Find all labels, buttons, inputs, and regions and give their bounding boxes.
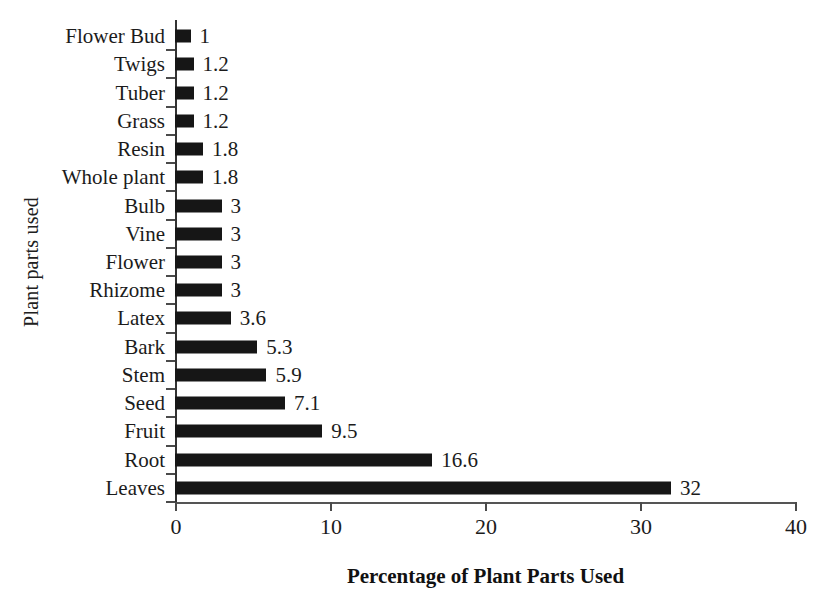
bar-row: Tuber1.2 bbox=[175, 78, 795, 106]
y-axis-tick bbox=[166, 106, 175, 108]
bar-row: Stem5.9 bbox=[175, 361, 795, 389]
x-axis-tick bbox=[640, 502, 642, 511]
plot-area: Flower Bud1Twigs1.2Tuber1.2Grass1.2Resin… bbox=[175, 22, 795, 502]
y-axis-tick bbox=[166, 275, 175, 277]
x-axis-tick bbox=[485, 502, 487, 511]
category-label: Twigs bbox=[114, 54, 165, 75]
category-label: Rhizome bbox=[89, 280, 165, 301]
bar bbox=[175, 368, 266, 381]
y-axis-title: Plant parts used bbox=[14, 22, 48, 502]
bar-value-label: 5.3 bbox=[257, 336, 292, 357]
category-label: Flower bbox=[106, 251, 166, 272]
bar-row: Bulb3 bbox=[175, 191, 795, 219]
bar-value-label: 5.9 bbox=[266, 364, 301, 385]
bar-row: Leaves32 bbox=[175, 474, 795, 502]
bar-value-label: 1.8 bbox=[203, 167, 238, 188]
x-axis-tick bbox=[330, 502, 332, 511]
bar bbox=[175, 312, 231, 325]
bar-value-label: 32 bbox=[671, 477, 701, 498]
x-axis-tick-label: 20 bbox=[475, 516, 497, 538]
x-axis-title: Percentage of Plant Parts Used bbox=[175, 564, 796, 589]
y-axis-tick bbox=[166, 134, 175, 136]
x-axis-tick-label: 0 bbox=[171, 516, 182, 538]
category-label: Grass bbox=[117, 110, 165, 131]
category-label: Tuber bbox=[116, 82, 165, 103]
bar bbox=[175, 171, 203, 184]
x-axis-tick bbox=[175, 502, 177, 511]
bar bbox=[175, 143, 203, 156]
category-label: Flower Bud bbox=[65, 26, 165, 47]
bar bbox=[175, 425, 322, 438]
bar-row: Flower Bud1 bbox=[175, 22, 795, 50]
bar-chart: Plant parts used Flower Bud1Twigs1.2Tube… bbox=[0, 0, 824, 613]
bar bbox=[175, 30, 191, 43]
bar-row: Resin1.8 bbox=[175, 135, 795, 163]
y-axis-tick bbox=[166, 247, 175, 249]
bar-row: Whole plant1.8 bbox=[175, 163, 795, 191]
category-label: Seed bbox=[124, 393, 165, 414]
y-axis-tick bbox=[166, 332, 175, 334]
bar-value-label: 3 bbox=[222, 280, 242, 301]
y-axis-tick bbox=[166, 416, 175, 418]
bar bbox=[175, 86, 194, 99]
x-axis-tick-label: 10 bbox=[320, 516, 342, 538]
category-label: Vine bbox=[125, 223, 165, 244]
y-axis-tick bbox=[166, 219, 175, 221]
bar-row: Fruit9.5 bbox=[175, 417, 795, 445]
y-axis-tick bbox=[166, 303, 175, 305]
x-axis-tick-label: 30 bbox=[630, 516, 652, 538]
bar-value-label: 1.8 bbox=[203, 139, 238, 160]
x-axis-tick bbox=[795, 502, 797, 511]
category-label: Bark bbox=[124, 336, 165, 357]
bar-value-label: 3 bbox=[222, 195, 242, 216]
bar-row: Bark5.3 bbox=[175, 333, 795, 361]
bar-row: Grass1.2 bbox=[175, 107, 795, 135]
bar bbox=[175, 481, 671, 494]
category-label: Stem bbox=[122, 364, 165, 385]
bar bbox=[175, 199, 222, 212]
category-label: Fruit bbox=[124, 421, 165, 442]
y-axis-tick bbox=[166, 49, 175, 51]
category-label: Resin bbox=[117, 139, 165, 160]
category-label: Latex bbox=[117, 308, 165, 329]
bar bbox=[175, 58, 194, 71]
bar bbox=[175, 227, 222, 240]
y-axis-tick bbox=[166, 501, 175, 503]
bar bbox=[175, 397, 285, 410]
x-axis-tick-label: 40 bbox=[785, 516, 807, 538]
bar-value-label: 7.1 bbox=[285, 393, 320, 414]
bar-value-label: 1.2 bbox=[194, 110, 229, 131]
category-label: Leaves bbox=[106, 477, 165, 498]
category-label: Bulb bbox=[124, 195, 165, 216]
bar-row: Root16.6 bbox=[175, 446, 795, 474]
bar-value-label: 1.2 bbox=[194, 54, 229, 75]
bar-value-label: 16.6 bbox=[432, 449, 478, 470]
bar-value-label: 9.5 bbox=[322, 421, 357, 442]
bar bbox=[175, 453, 432, 466]
bar-value-label: 3.6 bbox=[231, 308, 266, 329]
bar-row: Flower3 bbox=[175, 248, 795, 276]
y-axis-tick bbox=[166, 473, 175, 475]
y-axis-tick bbox=[166, 190, 175, 192]
bar bbox=[175, 284, 222, 297]
bar bbox=[175, 255, 222, 268]
bar-row: Rhizome3 bbox=[175, 276, 795, 304]
bar-value-label: 3 bbox=[222, 251, 242, 272]
y-axis-tick bbox=[166, 162, 175, 164]
y-axis-tick bbox=[166, 388, 175, 390]
bar-row: Seed7.1 bbox=[175, 389, 795, 417]
y-axis-tick bbox=[166, 445, 175, 447]
bar-value-label: 3 bbox=[222, 223, 242, 244]
category-label: Root bbox=[124, 449, 165, 470]
bar-row: Twigs1.2 bbox=[175, 50, 795, 78]
bar bbox=[175, 114, 194, 127]
category-label: Whole plant bbox=[62, 167, 165, 188]
bar-row: Latex3.6 bbox=[175, 304, 795, 332]
bar-value-label: 1 bbox=[191, 26, 211, 47]
bar-value-label: 1.2 bbox=[194, 82, 229, 103]
y-axis-tick bbox=[166, 360, 175, 362]
bar-row: Vine3 bbox=[175, 220, 795, 248]
bar bbox=[175, 340, 257, 353]
y-axis-tick bbox=[166, 77, 175, 79]
